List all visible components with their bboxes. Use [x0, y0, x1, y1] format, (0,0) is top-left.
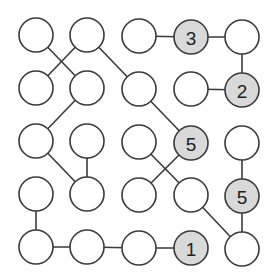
empty-circle-icon: [122, 231, 156, 265]
empty-circle-icon: [174, 178, 208, 212]
empty-circle-icon: [225, 232, 259, 266]
circle-node-r5c3[interactable]: [122, 231, 156, 265]
node-number: 5: [237, 187, 248, 208]
empty-circle-icon: [70, 230, 104, 264]
node-number: 1: [186, 239, 197, 260]
node-number: 5: [186, 134, 197, 155]
circle-node-r2c4[interactable]: [174, 72, 208, 106]
empty-circle-icon: [70, 18, 104, 52]
circle-node-r4c2[interactable]: [70, 177, 104, 211]
empty-circle-icon: [19, 124, 53, 158]
circle-node-r1c2[interactable]: [70, 18, 104, 52]
circle-node-r2c2[interactable]: [70, 71, 104, 105]
empty-circle-icon: [70, 71, 104, 105]
circle-node-r4c5[interactable]: 5: [225, 179, 259, 213]
circle-node-r3c2[interactable]: [70, 124, 104, 158]
empty-circle-icon: [122, 72, 156, 106]
circle-node-r1c1[interactable]: [19, 18, 53, 52]
circle-node-r5c1[interactable]: [19, 230, 53, 264]
circle-node-r2c3[interactable]: [122, 72, 156, 106]
circle-node-r4c3[interactable]: [122, 178, 156, 212]
node-number: 3: [186, 28, 197, 49]
empty-circle-icon: [122, 178, 156, 212]
empty-circle-icon: [19, 230, 53, 264]
circle-node-r3c1[interactable]: [19, 124, 53, 158]
empty-circle-icon: [122, 19, 156, 53]
puzzle-board: 32551: [0, 0, 280, 274]
circle-node-r2c5[interactable]: 2: [225, 73, 259, 107]
empty-circle-icon: [70, 177, 104, 211]
circle-node-r5c5[interactable]: [225, 232, 259, 266]
circle-node-r5c2[interactable]: [70, 230, 104, 264]
circle-node-r3c5[interactable]: [225, 126, 259, 160]
circle-node-r1c4[interactable]: 3: [174, 20, 208, 54]
circle-node-r1c3[interactable]: [122, 19, 156, 53]
empty-circle-icon: [19, 177, 53, 211]
circle-node-r2c1[interactable]: [19, 71, 53, 105]
circle-node-r3c4[interactable]: 5: [174, 126, 208, 160]
empty-circle-icon: [70, 124, 104, 158]
circle-node-r3c3[interactable]: [122, 125, 156, 159]
empty-circle-icon: [225, 20, 259, 54]
empty-circle-icon: [122, 125, 156, 159]
empty-circle-icon: [225, 126, 259, 160]
circle-node-r1c5[interactable]: [225, 20, 259, 54]
circle-node-r4c4[interactable]: [174, 178, 208, 212]
empty-circle-icon: [19, 18, 53, 52]
empty-circle-icon: [19, 71, 53, 105]
circle-node-r5c4[interactable]: 1: [174, 231, 208, 265]
empty-circle-icon: [174, 72, 208, 106]
node-number: 2: [237, 81, 248, 102]
circle-node-r4c1[interactable]: [19, 177, 53, 211]
